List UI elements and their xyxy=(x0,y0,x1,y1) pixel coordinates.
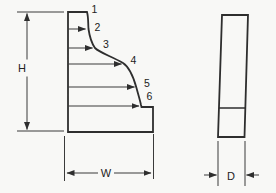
width-dimension: W xyxy=(65,134,154,181)
point-label-2: 2 xyxy=(95,21,101,33)
point-label-4: 4 xyxy=(131,54,137,66)
side-view xyxy=(218,15,248,137)
point-label-1: 1 xyxy=(92,3,98,15)
point-label-6: 6 xyxy=(147,90,153,102)
height-dimension: H xyxy=(17,12,64,131)
technical-diagram: 1 2 3 4 5 6 H W xyxy=(0,0,276,193)
profile-outline xyxy=(68,12,153,132)
depth-label: D xyxy=(227,170,235,182)
height-label: H xyxy=(18,62,26,74)
diagram-canvas: 1 2 3 4 5 6 H W xyxy=(0,0,276,193)
point-label-3: 3 xyxy=(103,38,109,50)
depth-dimension: D xyxy=(204,141,259,186)
side-view-outline xyxy=(218,15,248,137)
front-view: 1 2 3 4 5 6 xyxy=(68,3,153,133)
width-label: W xyxy=(101,167,112,179)
point-label-5: 5 xyxy=(144,77,150,89)
